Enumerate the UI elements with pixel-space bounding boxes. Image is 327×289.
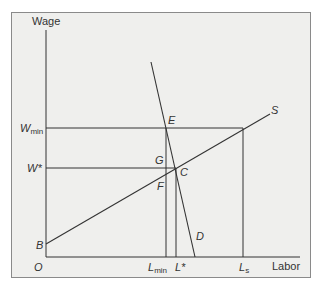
wstar-label: W* xyxy=(27,162,42,174)
labor-market-diagram: Wage Labor O Wmin W* Lmin L* Ls S D B E … xyxy=(0,0,327,289)
supply-curve xyxy=(46,114,270,244)
lmin-label: Lmin xyxy=(148,261,167,275)
wmin-label: Wmin xyxy=(20,122,43,136)
point-e-label: E xyxy=(168,114,176,126)
demand-label: D xyxy=(196,230,204,242)
supply-label: S xyxy=(271,104,279,116)
ls-label: Ls xyxy=(239,261,249,275)
origin-label: O xyxy=(34,261,43,273)
x-axis-label: Labor xyxy=(272,260,300,272)
lstar-label: L* xyxy=(175,261,186,273)
point-f-label: F xyxy=(157,180,165,192)
b-label: B xyxy=(36,239,43,251)
y-axis-label: Wage xyxy=(32,15,60,27)
point-c-label: C xyxy=(180,166,188,178)
point-g-label: G xyxy=(155,154,164,166)
